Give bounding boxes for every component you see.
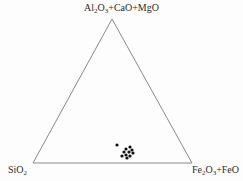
data-point-group <box>115 143 134 159</box>
data-point <box>124 153 127 156</box>
ternary-diagram: Al2O3+CaO+MgO SiO2 Fe2O3+FeO <box>0 0 243 181</box>
data-point <box>122 150 125 153</box>
data-point <box>124 147 127 150</box>
ternary-plot-canvas <box>0 0 243 181</box>
triangle-edges <box>33 19 192 163</box>
data-point <box>127 150 130 153</box>
data-point <box>130 148 133 151</box>
data-point <box>120 154 123 157</box>
data-point <box>131 151 134 154</box>
data-point <box>128 145 131 148</box>
data-point <box>115 143 118 146</box>
data-point <box>125 156 128 159</box>
apex-label: Al2O3+CaO+MgO <box>84 3 159 13</box>
triangle-outline <box>33 19 192 163</box>
bottom-left-label: SiO2 <box>8 165 27 175</box>
bottom-right-label: Fe2O3+FeO <box>192 165 239 175</box>
data-point <box>128 154 131 157</box>
